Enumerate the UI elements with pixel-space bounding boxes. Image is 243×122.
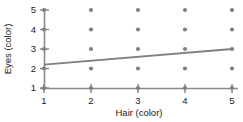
data-point xyxy=(89,27,93,31)
data-point xyxy=(42,47,46,51)
x-tick-label: 3 xyxy=(135,95,140,106)
x-tick-label: 1 xyxy=(41,95,46,106)
y-tick-label: 1 xyxy=(31,82,36,93)
x-tick-label: 2 xyxy=(88,95,93,106)
data-point xyxy=(89,66,93,70)
data-point xyxy=(183,86,187,90)
y-tick-label: 4 xyxy=(31,24,36,35)
regression-line-group xyxy=(44,49,232,65)
data-point xyxy=(136,86,140,90)
y-tick-labels: 12345 xyxy=(31,4,36,93)
data-point xyxy=(230,8,234,12)
data-point-group xyxy=(42,8,234,90)
x-tick-label: 4 xyxy=(182,95,187,106)
data-point xyxy=(89,47,93,51)
data-point xyxy=(89,86,93,90)
data-point xyxy=(136,27,140,31)
x-axis-label: Hair (color) xyxy=(116,107,163,118)
data-point xyxy=(183,47,187,51)
data-point xyxy=(136,66,140,70)
data-point xyxy=(42,8,46,12)
y-tick-label: 5 xyxy=(31,4,36,15)
data-point xyxy=(89,8,93,12)
x-tick-label: 5 xyxy=(229,95,234,106)
data-point xyxy=(183,8,187,12)
chart-canvas: 12345 Eyes (color) 12345 Hair (color) xyxy=(0,0,243,122)
data-point xyxy=(230,86,234,90)
data-point xyxy=(136,47,140,51)
y-tick-label: 3 xyxy=(31,43,36,54)
data-point xyxy=(42,86,46,90)
x-tick-labels: 12345 xyxy=(41,95,234,106)
regression-line xyxy=(44,49,232,65)
data-point xyxy=(183,66,187,70)
data-point xyxy=(230,27,234,31)
data-point xyxy=(230,66,234,70)
y-tick-label: 2 xyxy=(31,63,36,74)
data-point xyxy=(42,27,46,31)
data-point xyxy=(42,66,46,70)
y-axis-label: Eyes (color) xyxy=(2,24,13,75)
data-point xyxy=(183,27,187,31)
data-point xyxy=(136,8,140,12)
scatter-plot-figure: 12345 Eyes (color) 12345 Hair (color) xyxy=(0,0,243,122)
